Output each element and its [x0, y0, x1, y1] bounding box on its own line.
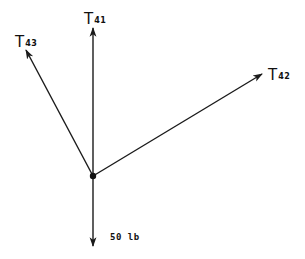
weight-label: 50 lb — [110, 232, 140, 242]
t41-label: T41 — [84, 10, 106, 28]
t43-arrow — [26, 50, 93, 176]
junction-point — [90, 173, 96, 179]
t43-symbol: T — [15, 33, 24, 51]
t42-label: T42 — [268, 66, 290, 84]
force-vectors — [0, 0, 305, 259]
t41-symbol: T — [84, 10, 93, 28]
t43-label: T43 — [15, 33, 37, 51]
t42-arrow — [93, 74, 262, 176]
t42-symbol: T — [268, 66, 277, 84]
t41-subscript: 41 — [94, 16, 106, 25]
t43-subscript: 43 — [25, 39, 37, 48]
t42-subscript: 42 — [278, 72, 290, 81]
free-body-diagram: T41 T43 T42 50 lb — [0, 0, 305, 259]
